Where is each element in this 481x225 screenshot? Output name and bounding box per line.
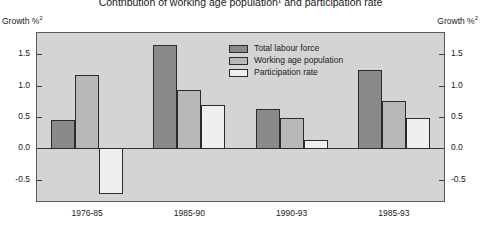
y-tick-label-left: 1.0: [6, 81, 30, 90]
bar: [177, 90, 201, 150]
bar: [153, 45, 177, 150]
y-tick-label-right: 1.0: [451, 81, 477, 90]
y-tick-mark-left: [37, 180, 42, 181]
y-tick-label-right: 0.5: [451, 112, 477, 121]
y-tick-mark-left: [37, 117, 42, 118]
y-tick-label-right: 1.5: [451, 49, 477, 58]
y-tick-label-left: 0.0: [6, 143, 30, 152]
x-axis-label: 1985-93: [343, 208, 445, 218]
bar: [382, 101, 406, 150]
y-tick-label-left: 1.5: [6, 49, 30, 58]
bar: [99, 148, 123, 193]
bar: [75, 75, 99, 150]
y-axis-left-caption: Growth %2: [2, 16, 43, 26]
legend-swatch-icon: [229, 45, 248, 53]
bar: [51, 120, 75, 150]
y-axis-right-caption: Growth %2: [437, 16, 478, 26]
y-tick-mark-right: [439, 86, 444, 87]
y-tick-mark-left: [37, 148, 42, 149]
legend-item: Total labour force: [229, 43, 343, 54]
y-axis-left-footnote-marker: 2: [39, 15, 42, 21]
y-tick-mark-left: [37, 54, 42, 55]
bar-chart: Contribution of working age population¹ …: [0, 0, 481, 225]
y-axis-left-caption-text: Growth %: [2, 16, 39, 26]
bar: [304, 140, 328, 150]
legend-item: Participation rate: [229, 67, 343, 78]
y-tick-label-left: 0.5: [6, 112, 30, 121]
y-tick-mark-right: [439, 54, 444, 55]
y-tick-mark-right: [439, 180, 444, 181]
chart-title-text: Contribution of working age population¹ …: [99, 0, 383, 8]
legend-item-label: Participation rate: [254, 68, 318, 77]
chart-legend: Total labour forceWorking age population…: [229, 43, 343, 79]
legend-item: Working age population: [229, 55, 343, 66]
y-tick-mark-right: [439, 148, 444, 149]
legend-swatch-icon: [229, 69, 248, 77]
legend-swatch-icon: [229, 57, 248, 65]
x-axis-label: 1985-90: [138, 208, 240, 218]
chart-title: Contribution of working age population¹ …: [0, 0, 481, 8]
y-tick-mark-left: [37, 86, 42, 87]
bar: [358, 70, 382, 149]
bar: [201, 105, 225, 149]
y-tick-label-left: -0.5: [6, 175, 30, 184]
y-axis-right-footnote-marker: 2: [475, 15, 478, 21]
x-axis-label: 1976-85: [36, 208, 138, 218]
bar: [256, 109, 280, 150]
y-tick-label-right: -0.5: [451, 175, 477, 184]
legend-item-label: Total labour force: [254, 44, 319, 53]
y-tick-mark-right: [439, 117, 444, 118]
y-tick-label-right: 0.0: [451, 143, 477, 152]
x-axis-label: 1990-93: [241, 208, 343, 218]
bar: [406, 118, 430, 149]
y-axis-right-caption-text: Growth %: [437, 16, 474, 26]
legend-item-label: Working age population: [254, 56, 343, 65]
bar: [280, 118, 304, 149]
